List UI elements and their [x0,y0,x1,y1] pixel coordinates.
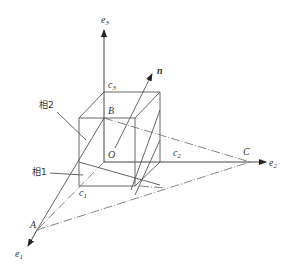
phase1-label: 相1 [32,166,47,177]
e2-label: e2 [269,157,277,170]
phase1-leader [50,173,83,175]
e1-label: e1 [15,248,23,261]
e1-axis [37,162,104,230]
e3-label: e3 [101,14,109,27]
point-a-label: A [29,219,37,230]
point-c-label: C [243,146,250,157]
crystal-plane-diagram: e3 e2 e1 c3 c2 c1 B O C A n 相2 相1 [0,0,288,275]
c2-label: c2 [173,147,181,160]
normal-n-label: n [157,65,163,76]
c1-label: c1 [79,187,87,200]
phase2-leader [57,112,86,140]
point-b-label: B [108,105,114,116]
c3-label: c3 [108,79,116,92]
phase2-label: 相2 [39,99,54,110]
point-o-label: O [108,149,115,160]
interface-plane [79,110,165,195]
normal-vector-n [115,74,152,148]
e1-axis-tip [28,230,37,246]
